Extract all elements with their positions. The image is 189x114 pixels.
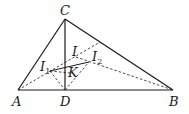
segment-I1K-dashed	[50, 71, 70, 73]
label-A: A	[11, 94, 21, 109]
segment-CB	[65, 19, 173, 90]
label-I1: I1	[39, 59, 50, 76]
label-I: I	[71, 44, 78, 59]
segment-IB-dashed	[76, 57, 173, 90]
label-I2: I2	[91, 49, 102, 66]
label-C: C	[60, 3, 70, 18]
label-D: D	[59, 94, 71, 109]
segment-I1D-dashed	[50, 71, 65, 90]
segment-AC	[18, 19, 65, 90]
geometry-diagram: C A D B I I1 I2 K	[0, 0, 189, 114]
label-K: K	[67, 65, 79, 80]
label-B: B	[168, 94, 179, 109]
